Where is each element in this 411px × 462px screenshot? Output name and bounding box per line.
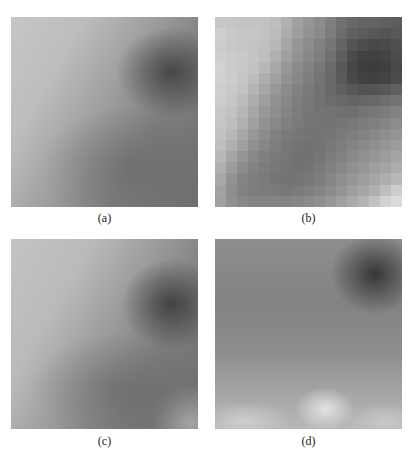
pixel-block bbox=[237, 95, 248, 106]
pixel-block bbox=[358, 140, 369, 151]
pixel-block bbox=[336, 95, 347, 106]
pixel-block bbox=[380, 162, 391, 173]
pixel-block bbox=[259, 140, 270, 151]
pixel-block bbox=[259, 39, 270, 50]
pixel-block bbox=[237, 39, 248, 50]
pixel-block bbox=[369, 84, 380, 95]
pixel-block bbox=[391, 118, 402, 129]
pixel-block bbox=[303, 106, 314, 117]
pixel-block bbox=[226, 51, 237, 62]
pixel-block bbox=[281, 185, 292, 196]
pixel-block bbox=[215, 39, 226, 50]
pixel-block bbox=[325, 51, 336, 62]
pixel-block bbox=[259, 62, 270, 73]
pixel-block bbox=[292, 162, 303, 173]
pixel-block bbox=[336, 129, 347, 140]
pixel-block bbox=[391, 17, 402, 28]
pixel-block bbox=[325, 17, 336, 28]
pixel-block bbox=[226, 17, 237, 28]
pixel-block bbox=[336, 185, 347, 196]
pixel-block bbox=[369, 140, 380, 151]
pixel-block bbox=[369, 151, 380, 162]
pixel-block bbox=[325, 62, 336, 73]
pixel-block bbox=[325, 185, 336, 196]
pixel-block bbox=[303, 39, 314, 50]
pixel-block bbox=[259, 151, 270, 162]
pixel-block bbox=[336, 196, 347, 207]
pixel-block bbox=[215, 173, 226, 184]
pixel-block bbox=[215, 162, 226, 173]
pixel-block bbox=[391, 196, 402, 207]
pixel-block bbox=[270, 185, 281, 196]
pixel-block bbox=[358, 151, 369, 162]
pixel-block bbox=[303, 129, 314, 140]
pixel-block bbox=[391, 173, 402, 184]
pixel-block bbox=[226, 28, 237, 39]
pixel-block bbox=[303, 28, 314, 39]
pixel-block bbox=[270, 162, 281, 173]
pixel-block bbox=[215, 17, 226, 28]
pixel-block bbox=[358, 185, 369, 196]
pixel-block bbox=[347, 84, 358, 95]
pixel-block bbox=[369, 162, 380, 173]
pixel-block bbox=[380, 51, 391, 62]
pixel-block bbox=[369, 106, 380, 117]
pixel-block bbox=[259, 106, 270, 117]
pixel-block bbox=[281, 73, 292, 84]
pixel-block bbox=[336, 84, 347, 95]
pixel-block bbox=[248, 129, 259, 140]
pixel-block bbox=[391, 162, 402, 173]
pixel-block bbox=[215, 129, 226, 140]
pixel-block bbox=[314, 28, 325, 39]
pixel-block bbox=[281, 196, 292, 207]
pixel-block bbox=[303, 17, 314, 28]
pixel-block bbox=[215, 73, 226, 84]
pixel-block bbox=[259, 162, 270, 173]
pixel-block bbox=[248, 84, 259, 95]
pixel-block bbox=[281, 173, 292, 184]
pixel-block bbox=[358, 95, 369, 106]
pixel-block bbox=[325, 106, 336, 117]
image-panel-a bbox=[11, 17, 198, 207]
pixel-block bbox=[325, 162, 336, 173]
pixel-block bbox=[314, 151, 325, 162]
pixel-block bbox=[369, 185, 380, 196]
pixel-block bbox=[248, 196, 259, 207]
pixel-block bbox=[380, 106, 391, 117]
pixel-block bbox=[391, 51, 402, 62]
pixel-block bbox=[358, 84, 369, 95]
pixel-block bbox=[347, 173, 358, 184]
pixel-block bbox=[237, 73, 248, 84]
pixel-block bbox=[358, 39, 369, 50]
pixel-block bbox=[226, 73, 237, 84]
pixel-block bbox=[215, 196, 226, 207]
pixel-block bbox=[237, 28, 248, 39]
pixel-block bbox=[347, 151, 358, 162]
pixel-block bbox=[303, 140, 314, 151]
pixel-block bbox=[303, 73, 314, 84]
pixel-block bbox=[259, 118, 270, 129]
pixel-block bbox=[292, 73, 303, 84]
pixel-block bbox=[325, 118, 336, 129]
pixel-block bbox=[281, 162, 292, 173]
pixel-block bbox=[369, 196, 380, 207]
pixel-block bbox=[358, 106, 369, 117]
pixel-block bbox=[248, 151, 259, 162]
pixel-block bbox=[347, 196, 358, 207]
pixel-block bbox=[259, 17, 270, 28]
pixel-block bbox=[358, 73, 369, 84]
pixel-block bbox=[281, 17, 292, 28]
pixel-block bbox=[336, 151, 347, 162]
pixel-block bbox=[314, 129, 325, 140]
pixel-block bbox=[303, 151, 314, 162]
pixel-block bbox=[347, 185, 358, 196]
pixel-block bbox=[270, 51, 281, 62]
pixel-block bbox=[380, 196, 391, 207]
pixel-block bbox=[237, 185, 248, 196]
pixel-block bbox=[292, 62, 303, 73]
pixel-block bbox=[292, 95, 303, 106]
pixel-block bbox=[314, 62, 325, 73]
pixel-block bbox=[270, 106, 281, 117]
pixel-block bbox=[358, 62, 369, 73]
pixel-block bbox=[380, 84, 391, 95]
